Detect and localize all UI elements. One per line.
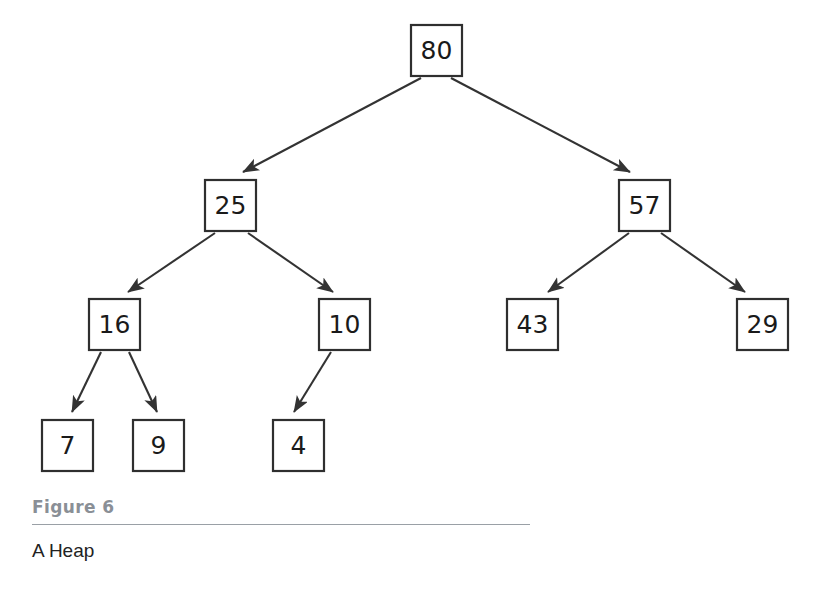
edge-25-10 — [248, 233, 333, 292]
heap-node-16[interactable]: 16 — [89, 299, 140, 350]
heap-tree-diagram: 80 25 57 16 10 43 29 — [0, 0, 825, 500]
heap-node-25[interactable]: 25 — [205, 180, 256, 231]
heap-node-57[interactable]: 57 — [619, 180, 670, 231]
figure-container: 80 25 57 16 10 43 29 — [0, 0, 825, 592]
node-value: 57 — [629, 191, 661, 220]
edge-16-7 — [72, 352, 101, 412]
heap-node-80[interactable]: 80 — [411, 25, 462, 76]
edge-25-16 — [128, 233, 215, 292]
node-value: 9 — [151, 431, 167, 460]
node-value: 7 — [60, 431, 76, 460]
node-value: 25 — [215, 191, 247, 220]
edge-10-4 — [294, 352, 331, 412]
edge-57-29 — [661, 233, 745, 292]
figure-caption-text: A Heap — [32, 539, 532, 563]
heap-node-9[interactable]: 9 — [133, 420, 184, 471]
heap-node-7[interactable]: 7 — [42, 420, 93, 471]
edge-80-25 — [243, 78, 421, 172]
heap-node-10[interactable]: 10 — [319, 299, 370, 350]
caption-divider — [32, 524, 530, 525]
node-value: 29 — [747, 310, 779, 339]
heap-node-4[interactable]: 4 — [273, 420, 324, 471]
node-value: 10 — [329, 310, 361, 339]
node-value: 43 — [517, 310, 549, 339]
edge-16-9 — [129, 352, 157, 412]
node-value: 80 — [421, 36, 453, 65]
heap-node-43[interactable]: 43 — [507, 299, 558, 350]
edge-57-43 — [548, 233, 629, 292]
node-value: 4 — [291, 431, 307, 460]
edge-80-57 — [451, 78, 630, 172]
node-value: 16 — [99, 310, 131, 339]
heap-node-29[interactable]: 29 — [737, 299, 788, 350]
figure-number-label: Figure 6 — [32, 496, 532, 518]
figure-caption-block: Figure 6 A Heap — [32, 496, 532, 563]
